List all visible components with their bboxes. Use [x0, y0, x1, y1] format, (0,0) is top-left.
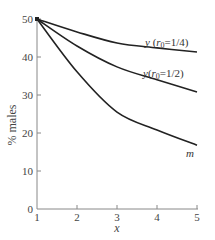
label-m: m [186, 147, 194, 159]
x-tick-label: 2 [74, 211, 80, 223]
x-axis-label: x [113, 221, 120, 235]
label-y-r0-half: y(r0=1/2) [142, 67, 184, 81]
y-ticks: 50 40 30 20 10 0 [22, 13, 41, 215]
y-tick-label: 20 [22, 127, 34, 139]
chart: 50 40 30 20 10 0 1 2 3 4 5 x % males y (… [0, 0, 215, 240]
curve-y-r0-half [37, 19, 197, 92]
x-tick-label: 1 [34, 211, 40, 223]
y-tick-label: 40 [22, 51, 34, 63]
start-point-marker [35, 17, 39, 21]
x-tick-label: 4 [154, 211, 160, 223]
label-y-r0-quarter: y (r0=1/4) [144, 36, 189, 50]
x-tick-label: 5 [194, 211, 200, 223]
y-axis-label: % males [5, 104, 19, 145]
y-tick-label: 10 [22, 165, 34, 177]
y-tick-label: 0 [28, 203, 34, 215]
y-tick-label: 50 [22, 13, 34, 25]
y-tick-label: 30 [22, 89, 34, 101]
